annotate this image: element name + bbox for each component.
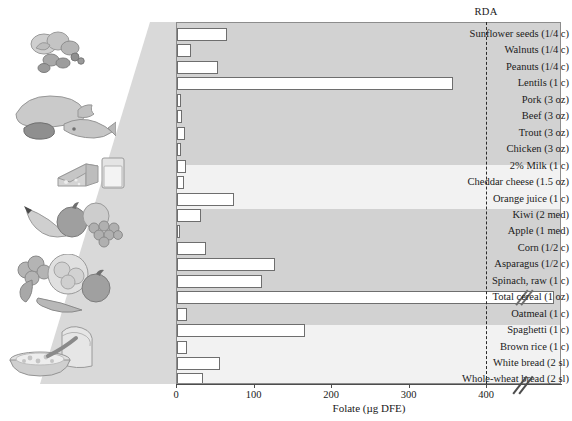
bar-asparagus-1-2-c [177, 258, 275, 271]
dairy-icon [54, 152, 130, 194]
x-axis-break-marker [515, 376, 533, 393]
x-tick-label: 400 [478, 389, 494, 400]
bar-pork-3-oz [177, 94, 181, 107]
bar-oatmeal-1-c [177, 308, 187, 321]
x-tick [486, 384, 487, 388]
bar-orange-juice-1-c [177, 193, 234, 206]
bar-sunflower-seeds-1-4-c [177, 28, 227, 41]
x-axis-line [176, 384, 562, 385]
x-tick [176, 384, 177, 388]
bar-kiwi-2-med [177, 209, 201, 222]
x-tick-label: 200 [323, 389, 339, 400]
bar-spinach-raw-1-c [177, 275, 262, 288]
grains-icon [8, 322, 118, 378]
x-tick [331, 384, 332, 388]
vegetables-icon [8, 254, 120, 316]
bar-whole-wheat-bread-2-sl [177, 373, 203, 384]
x-tick-label: 0 [173, 389, 178, 400]
rda-label: RDA [474, 6, 497, 17]
x-tick-label: 100 [246, 389, 262, 400]
fruits-icon [20, 202, 128, 250]
food-illustration-panel [0, 22, 176, 384]
x-tick [409, 384, 410, 388]
x-tick [254, 384, 255, 388]
bar-chicken-3-oz [177, 143, 181, 156]
bar-walnuts-1-4-c [177, 44, 191, 57]
bar-spaghetti-1-c [177, 324, 305, 337]
bar-trout-3-oz [177, 127, 185, 140]
bar-beef-3-oz [177, 110, 182, 123]
bar-2-milk-1-c [177, 160, 186, 173]
x-axis-title: Folate (µg DFE) [176, 402, 562, 414]
bar-corn-1-2-c [177, 242, 206, 255]
nuts-and-legumes-icon [18, 30, 102, 78]
rda-reference-line [486, 22, 487, 384]
bar-white-bread-2-sl [177, 357, 220, 370]
x-tick-label: 300 [401, 389, 417, 400]
meat-and-fish-icon [8, 88, 116, 146]
bar-cheddar-cheese-1-5-oz [177, 176, 184, 189]
bar-peanuts-1-4-c [177, 61, 218, 74]
bar-brown-rice-1-c [177, 341, 187, 354]
folate-bar-chart: Sunflower seeds (1/4 c)Walnuts (1/4 c)Pe… [0, 0, 572, 421]
bar-apple-1-med [177, 225, 180, 238]
